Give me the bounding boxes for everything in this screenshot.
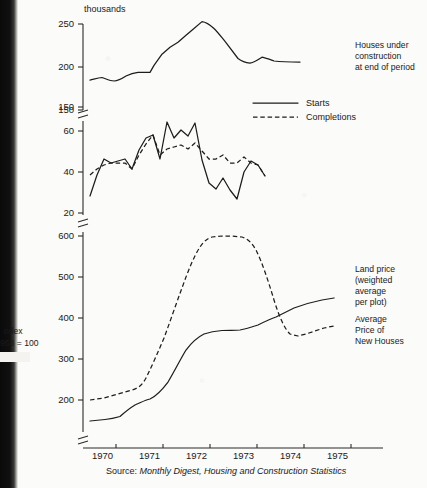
- source-note: Source: Monthly Digest, Housing and Cons…: [106, 466, 346, 476]
- panel3-ytick-label-600: 600: [58, 230, 74, 241]
- series-land-price: [90, 236, 334, 400]
- axis-break-marks-1: [78, 110, 88, 118]
- annot-land-price-line2: (weighted: [355, 275, 392, 285]
- x-axis: 1970 1971 1972 1973 1974 1975: [83, 444, 383, 461]
- x-tick-label-1975: 1975: [327, 450, 348, 461]
- x-tick-label-1971: 1971: [139, 450, 160, 461]
- panel3-ytick-label-400: 400: [58, 312, 74, 323]
- panel2-ytick-label-60: 60: [63, 125, 74, 136]
- series-completions: [90, 135, 265, 176]
- unit-label-thousands: thousands: [84, 4, 126, 14]
- panel2-ytick-label-150: 150: [58, 101, 74, 112]
- series-houses-under-construction: [90, 22, 300, 81]
- axis-break-marks-3: [78, 436, 88, 444]
- index-note-line2: 963 = 100: [0, 338, 39, 348]
- panel-prices: 600 500 400 300 200 Land price (weighted…: [0, 230, 404, 432]
- axis-break-upper: [78, 110, 88, 118]
- annot-land-price-line3: average: [355, 286, 386, 296]
- figure-page: 250 200 150 thousands Houses under const…: [0, 0, 427, 488]
- annot-houses-line2: construction: [355, 51, 402, 61]
- three-panel-chart: 250 200 150 thousands Houses under const…: [0, 0, 427, 488]
- panel3-ytick-label-500: 500: [58, 271, 74, 282]
- x-tick-label-1973: 1973: [233, 450, 254, 461]
- legend-label-completions: Completions: [306, 112, 357, 122]
- annot-land-price-line4: per plot): [355, 297, 387, 307]
- axis-break-bottom: [78, 436, 88, 444]
- panel3-ytick-label-200: 200: [58, 394, 74, 405]
- panel2-ytick-label-20: 20: [63, 207, 74, 218]
- annot-avg-price-line2: Price of: [355, 325, 385, 335]
- panel-starts-completions: 60 40 20 Starts Completions 150: [58, 98, 356, 218]
- x-tick-label-1970: 1970: [92, 450, 113, 461]
- legend-completions: Completions: [253, 112, 357, 122]
- x-tick-label-1974: 1974: [280, 450, 301, 461]
- legend-starts: Starts: [253, 98, 330, 108]
- index-note-line1: ndex: [4, 326, 23, 336]
- annot-avg-price-line1: Average: [355, 314, 387, 324]
- series-avg-price-new-houses: [90, 298, 334, 421]
- annot-land-price-line1: Land price: [355, 264, 395, 274]
- axis-break-marks-2: [78, 219, 88, 227]
- source-title: Monthly Digest, Housing and Construction…: [140, 466, 347, 476]
- panel2-ytick-label-40: 40: [63, 166, 74, 177]
- panel1-ytick-label-250: 250: [58, 18, 74, 29]
- legend-label-starts: Starts: [306, 98, 330, 108]
- annot-houses-line1: Houses under: [355, 40, 409, 50]
- series-starts: [90, 122, 265, 199]
- x-tick-label-1972: 1972: [186, 450, 207, 461]
- annot-houses-line3: at end of period: [355, 62, 415, 72]
- axis-break-lower: [78, 219, 88, 227]
- panel-houses-under-construction: 250 200 150 thousands Houses under const…: [58, 4, 415, 115]
- panel3-ytick-label-300: 300: [58, 353, 74, 364]
- annot-avg-price-line3: New Houses: [355, 336, 404, 346]
- source-prefix: Source:: [106, 466, 137, 476]
- panel1-ytick-label-200: 200: [58, 61, 74, 72]
